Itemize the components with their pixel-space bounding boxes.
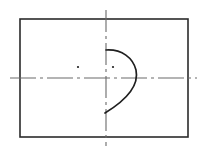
technical-drawing-svg: [0, 0, 206, 152]
left-center-dot: [77, 66, 79, 68]
right-center-dot: [112, 66, 114, 68]
cam-profile-curve: [105, 50, 136, 113]
drawing-canvas: [0, 0, 206, 152]
